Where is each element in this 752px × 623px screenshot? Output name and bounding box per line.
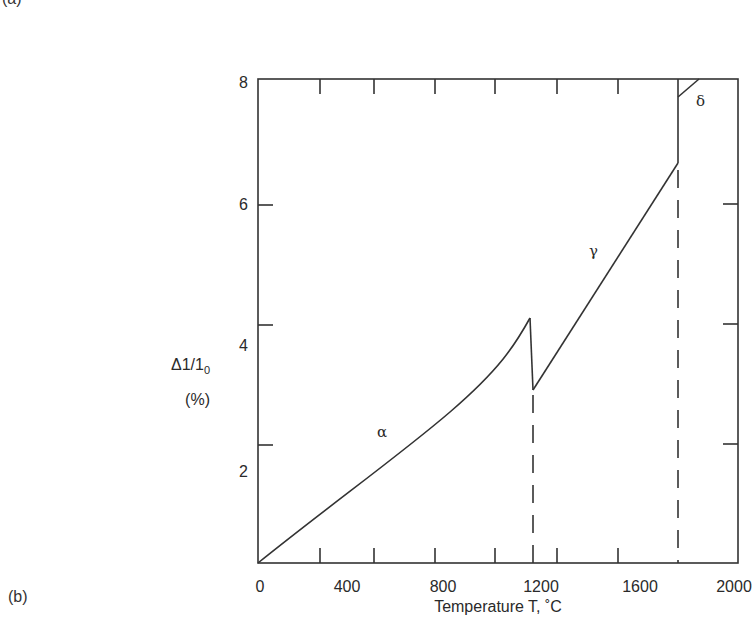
x-tick-label: 1600 bbox=[622, 578, 658, 596]
phase-label-gamma: γ bbox=[589, 242, 598, 260]
phase-label-alpha: α bbox=[377, 423, 387, 441]
y-axis-ticks-left bbox=[258, 205, 273, 445]
phase-label-delta: δ bbox=[696, 92, 705, 110]
x-axis-title: Temperature T, ˚C bbox=[434, 598, 562, 616]
x-tick-label: 1200 bbox=[523, 578, 559, 596]
y-axis-ticks-right bbox=[723, 204, 738, 444]
y-axis-title-unit: (%) bbox=[148, 385, 210, 415]
alpha-curve bbox=[258, 318, 530, 563]
gamma-curve bbox=[533, 163, 678, 390]
alpha-gamma-drop bbox=[530, 318, 533, 390]
y-tick-label: 2 bbox=[228, 463, 248, 481]
y-tick-label: 6 bbox=[228, 196, 248, 214]
x-axis-ticks-bottom bbox=[320, 548, 618, 563]
x-tick-label: 0 bbox=[256, 578, 265, 596]
y-axis-title: Δ1/10 (%) bbox=[148, 350, 210, 415]
plot-frame bbox=[258, 79, 738, 563]
x-axis-ticks-top bbox=[320, 79, 618, 94]
x-tick-label: 800 bbox=[430, 578, 457, 596]
y-tick-label: 8 bbox=[228, 74, 248, 92]
x-tick-label: 400 bbox=[334, 578, 361, 596]
x-tick-label: 2000 bbox=[716, 578, 752, 596]
y-tick-label: 4 bbox=[228, 337, 248, 355]
y-axis-title-subscript: 0 bbox=[204, 364, 210, 376]
y-axis-title-main: Δ1/1 bbox=[171, 356, 204, 373]
